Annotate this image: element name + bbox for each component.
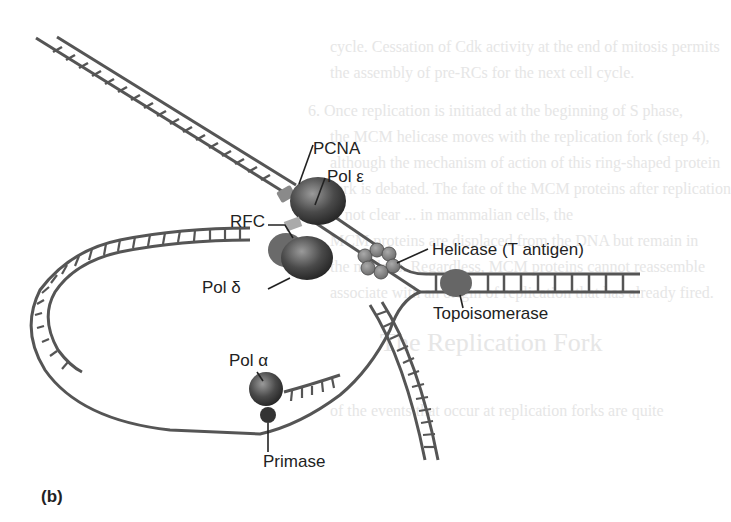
label-pcna: PCNA [313, 139, 360, 159]
label-primase: Primase [263, 452, 325, 472]
dna-primer-duplex [284, 375, 340, 401]
label-topoisomerase: Topoisomerase [433, 304, 548, 324]
helicase-leader [397, 249, 428, 263]
primase-protein [260, 407, 276, 423]
dna-duplex-okazaki-upper [35, 229, 250, 372]
topoisomerase-protein [440, 269, 472, 297]
dna-duplex-lower-right [370, 302, 438, 460]
label-pol-delta: Pol δ [202, 278, 241, 298]
label-pol-epsilon: Pol ε [327, 167, 364, 187]
pol-delta-leader [268, 278, 290, 289]
rfc-protein [284, 217, 302, 232]
panel-label: (b) [41, 487, 63, 507]
pol-delta-complex [268, 233, 333, 280]
label-pol-alpha: Pol α [229, 351, 268, 371]
pol-alpha-complex [249, 372, 283, 423]
pol-delta-protein [281, 236, 333, 280]
dna-duplex-upper-left [36, 37, 296, 196]
dna-duplex-parental [400, 266, 640, 292]
pol-alpha-protein [249, 372, 283, 406]
label-helicase: Helicase (T antigen) [432, 240, 584, 260]
label-rfc: RFC [230, 212, 265, 232]
